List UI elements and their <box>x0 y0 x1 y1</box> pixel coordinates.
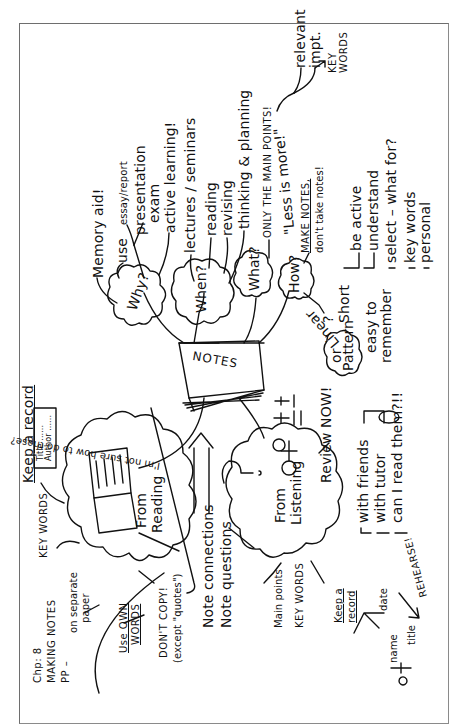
when-label: When? <box>194 265 209 313</box>
what-label: What? <box>247 246 262 291</box>
reference-card-author: Author ...... <box>45 415 53 461</box>
branch-what <box>244 298 256 343</box>
what-main-points: ONLY THE MAIN POINTS! <box>263 106 274 238</box>
person-icon <box>391 663 411 685</box>
what-relevant: relevant <box>293 9 308 68</box>
listening-review-now: Review NOW! <box>319 387 334 483</box>
how-be-active: be active <box>349 186 364 251</box>
listening-main-points: Main points <box>274 569 285 628</box>
chapter-label: Chp: 8 <box>33 647 44 683</box>
listening-key-words: KEY WORDS <box>295 563 306 628</box>
reading-to-keywords <box>57 541 79 548</box>
reading-own-words-2: WORDS <box>131 604 142 645</box>
why-exam: exam <box>147 184 162 223</box>
mind-map-canvas: Chp: 8 MAKING NOTES PP – NOTES Why? Memo… <box>19 23 448 723</box>
reading-keep-record: Keep a record <box>21 385 36 483</box>
how-easy-to: easy to <box>364 301 379 353</box>
page-title: MAKING NOTES <box>47 599 58 683</box>
what-impt: impt. <box>308 31 323 68</box>
how-short: Short <box>337 285 352 323</box>
note-connections: Note connections <box>201 504 216 628</box>
listening-label-from: From <box>273 488 288 523</box>
reading-own-words: Use OWN <box>119 602 130 653</box>
reading-separate: on separate <box>69 572 80 633</box>
when-revising: revising <box>220 180 235 236</box>
reading-to-dontcopy <box>139 571 154 583</box>
what-key-words: KEY WORDS <box>328 33 349 73</box>
reading-paper: paper <box>81 593 92 623</box>
reading-label-from: From <box>134 493 149 528</box>
when-thinking: thinking & planning <box>237 90 252 229</box>
reading-label-reading: Reading <box>150 475 165 533</box>
how-select: select – what for? <box>384 138 399 263</box>
how-understand: understand <box>366 170 381 251</box>
how-label: How? <box>287 255 302 293</box>
branch-listening <box>239 398 264 438</box>
listening-record: record <box>347 590 358 623</box>
how-personal: personal <box>418 202 433 263</box>
reading-cloud <box>62 411 196 560</box>
reading-dont-copy: DON'T COPY! <box>159 587 170 658</box>
how-key-words: key words <box>403 191 418 263</box>
how-make-notes: MAKE NOTES, <box>301 179 312 253</box>
why-memory-aid: Memory aid! <box>91 189 106 278</box>
listening-with-friends: with friends <box>356 439 371 523</box>
branch-how <box>259 291 289 343</box>
listening-name: name <box>389 634 400 663</box>
listening-title: title <box>407 625 418 645</box>
when-lectures: lectures / seminars <box>183 118 198 253</box>
how-remember: remember <box>379 289 394 363</box>
why-essay-report: essay/report <box>119 161 130 225</box>
why-use: use <box>115 238 130 263</box>
listening-to-keeprecord <box>311 561 324 583</box>
notes-book-icon <box>179 341 264 411</box>
listening-can-i-read: can I read them?!! <box>390 392 405 523</box>
listening-with-tutor: with tutor <box>373 454 388 523</box>
how-pattern: Pattern <box>341 320 356 371</box>
why-active-learning: active learning! <box>163 122 178 233</box>
how-dont-take: don't take notes! <box>315 166 326 253</box>
page-ref: PP – <box>61 661 72 683</box>
listening-date: date <box>379 588 390 611</box>
reading-except-quotes: (except "quotes") <box>173 573 184 663</box>
note-questions: Note questions <box>219 521 234 628</box>
when-reading: reading <box>204 182 219 236</box>
listening-label-listening: Listening <box>289 460 304 525</box>
reading-key-words: KEY WORDS <box>39 493 50 558</box>
listening-keep-a: Keep a <box>334 588 345 623</box>
how-question: ? <box>321 315 336 323</box>
